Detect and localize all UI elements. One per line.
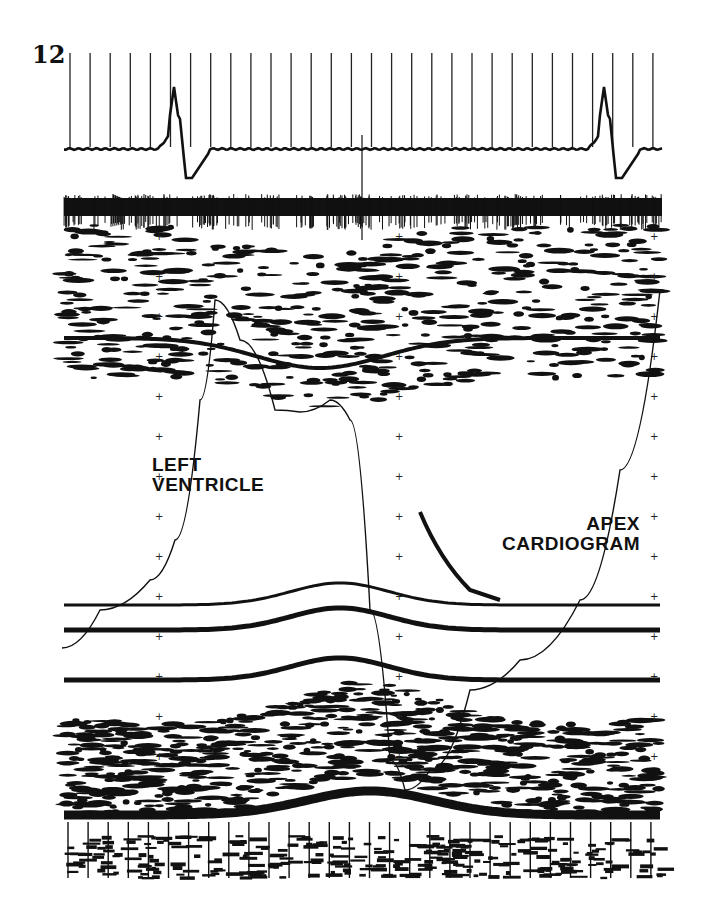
echo-speckle	[368, 324, 399, 329]
echo-speckle	[633, 251, 661, 254]
echo-speckle	[71, 787, 101, 792]
figure-number: 12	[32, 40, 65, 69]
echo-speckle	[406, 762, 428, 765]
echo-speckle	[68, 322, 97, 327]
echo-speckle	[417, 738, 435, 743]
grid-speckle	[304, 861, 315, 863]
echo-speckle	[181, 337, 193, 339]
echo-speckle	[102, 795, 116, 799]
echo-speckle	[257, 249, 288, 253]
echo-speckle	[123, 292, 143, 295]
grid-speckle	[73, 861, 85, 863]
grid-speckle	[250, 874, 266, 878]
echo-speckle	[585, 749, 594, 754]
grid-speckle	[173, 866, 183, 870]
grid-speckle	[103, 850, 114, 853]
echo-speckle	[514, 803, 543, 806]
echo-speckle	[570, 360, 595, 364]
echo-speckle	[422, 745, 452, 751]
echo-speckle	[615, 316, 640, 321]
echo-speckle	[337, 740, 365, 746]
echo-speckle	[253, 316, 262, 318]
grid-speckle	[153, 871, 161, 874]
depth-marker: +	[650, 231, 658, 242]
echo-speckle	[59, 801, 74, 807]
echo-speckle	[310, 738, 317, 743]
grid-speckle	[523, 851, 538, 854]
left-ventricle-label: LEFT VENTRICLE	[152, 455, 264, 495]
echo-speckle	[353, 692, 363, 695]
echo-speckle	[88, 245, 116, 248]
grid-speckle	[588, 864, 596, 866]
echo-speckle	[332, 764, 362, 768]
echo-speckle	[325, 698, 336, 703]
echo-speckle	[496, 764, 527, 767]
echo-speckle	[601, 314, 609, 318]
grid-speckle	[97, 869, 105, 873]
echo-speckle	[580, 792, 602, 797]
echo-speckle	[60, 302, 74, 305]
echo-speckle	[651, 257, 668, 261]
echo-speckle	[551, 344, 558, 347]
echo-speckle	[648, 767, 660, 772]
echo-speckle	[172, 740, 186, 743]
echo-speckle	[591, 332, 617, 335]
grid-speckle	[418, 864, 433, 867]
echo-speckle	[375, 285, 390, 289]
echo-speckle	[564, 331, 576, 335]
echo-speckle	[140, 292, 150, 297]
echo-speckle	[97, 343, 120, 345]
grid-speckle	[359, 874, 365, 877]
echo-speckle	[178, 761, 191, 766]
echo-speckle	[638, 323, 656, 326]
echo-speckle	[438, 261, 458, 266]
echo-speckle	[340, 265, 354, 270]
echo-speckle	[427, 778, 444, 782]
echo-speckle	[463, 326, 473, 331]
grid-speckle	[139, 853, 147, 857]
echo-speckle	[425, 758, 433, 762]
bottom-grid	[65, 822, 674, 880]
echo-speckle	[70, 233, 78, 239]
grid-speckle	[607, 842, 613, 845]
echo-speckle	[345, 333, 354, 337]
echo-speckle	[294, 293, 316, 296]
echo-speckle	[122, 351, 142, 353]
echo-speckle	[200, 330, 216, 336]
echo-speckle	[200, 764, 230, 768]
echo-speckle	[270, 332, 278, 336]
echo-speckle	[505, 787, 536, 790]
echo-speckle	[523, 264, 531, 268]
echo-speckle	[171, 238, 198, 242]
echo-speckle	[337, 355, 360, 358]
echo-speckle	[295, 346, 312, 348]
echo-speckle	[415, 771, 445, 773]
echo-speckle	[591, 293, 619, 296]
echo-speckle	[409, 310, 419, 316]
grid-speckle	[585, 853, 598, 855]
echo-speckle	[98, 801, 110, 805]
apex-cardiogram-label: APEX CARDIOGRAM	[502, 514, 640, 554]
grid-speckle	[171, 846, 188, 849]
grid-speckle	[592, 850, 599, 853]
echo-speckle	[73, 367, 99, 371]
grid-speckle	[640, 864, 653, 868]
echo-speckle	[57, 725, 76, 727]
echo-speckle	[303, 313, 313, 315]
echo-speckle	[333, 753, 344, 757]
depth-marker: +	[395, 551, 403, 562]
grid-speckle	[374, 848, 382, 850]
echo-speckle	[357, 311, 376, 316]
transducer-strip	[64, 198, 662, 216]
echo-speckle	[584, 317, 594, 322]
apex-cardiogram-label-line-2: CARDIOGRAM	[502, 534, 640, 554]
grid-speckle	[261, 846, 269, 849]
depth-marker: +	[155, 551, 163, 562]
echo-speckle	[393, 744, 402, 750]
echo-speckle	[404, 692, 410, 696]
echo-speckle	[449, 232, 474, 236]
depth-marker: +	[155, 311, 163, 322]
echo-speckle	[308, 705, 335, 708]
echo-speckle	[230, 794, 242, 796]
grid-speckle	[83, 843, 101, 845]
